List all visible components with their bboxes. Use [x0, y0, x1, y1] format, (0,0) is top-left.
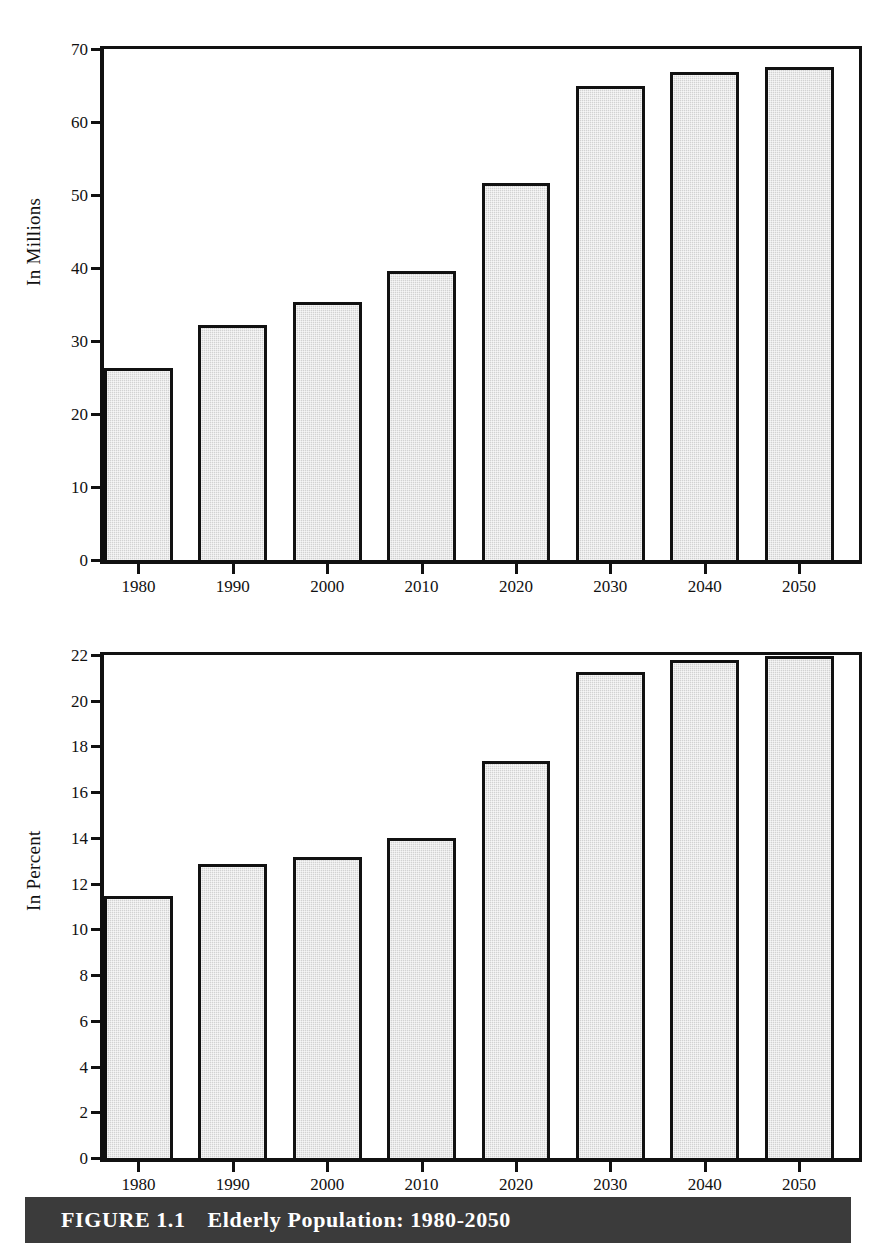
x-tick-label: 2010	[387, 577, 457, 597]
y-tick-label: 20	[54, 406, 88, 423]
y-tick-label: 2	[54, 1104, 88, 1121]
x-tick-label: 2020	[481, 577, 551, 597]
bar	[293, 857, 362, 1158]
bar	[765, 67, 834, 560]
plot-area-percent	[100, 652, 862, 1162]
x-tick-label: 2030	[575, 577, 645, 597]
chart-panel-percent: In Percent 0246810121416182022 198019902…	[0, 630, 875, 1195]
bar-series-millions	[104, 49, 859, 560]
y-tick-label: 10	[54, 921, 88, 938]
x-tick-mark	[609, 563, 612, 574]
x-tick-label: 2000	[292, 1175, 362, 1195]
y-tick-label: 30	[54, 333, 88, 350]
x-tick-label: 1990	[198, 1175, 268, 1195]
y-axis-tick-labels-millions: 010203040506070	[52, 0, 88, 600]
x-tick-label: 2020	[481, 1175, 551, 1195]
y-tick-label: 16	[54, 784, 88, 801]
bar	[387, 838, 456, 1158]
y-axis-title-millions: In Millions	[23, 246, 45, 286]
figure-caption-bar: FIGURE 1.1Elderly Population: 1980-2050	[25, 1197, 851, 1243]
y-tick-label: 4	[54, 1058, 88, 1075]
x-tick-label: 2000	[292, 577, 362, 597]
bar	[104, 368, 173, 560]
x-tick-label: 2010	[387, 1175, 457, 1195]
x-tick-mark	[609, 1161, 612, 1172]
bar	[670, 72, 739, 560]
bar	[104, 896, 173, 1158]
bar	[198, 325, 267, 560]
x-tick-mark	[798, 1161, 801, 1172]
x-tick-label: 2040	[670, 577, 740, 597]
bar	[198, 864, 267, 1158]
bar	[293, 302, 362, 560]
figure-caption-label: FIGURE 1.1	[61, 1207, 186, 1232]
x-tick-mark	[232, 1161, 235, 1172]
x-tick-mark	[704, 1161, 707, 1172]
y-tick-label: 10	[54, 479, 88, 496]
x-tick-mark	[137, 1161, 140, 1172]
figure-caption-text: FIGURE 1.1Elderly Population: 1980-2050	[61, 1207, 511, 1233]
y-axis-tick-labels-percent: 0246810121416182022	[52, 630, 88, 1195]
x-tick-mark	[421, 563, 424, 574]
bar	[576, 672, 645, 1158]
figure-caption-title: Elderly Population: 1980-2050	[208, 1207, 511, 1232]
y-tick-label: 14	[54, 829, 88, 846]
x-tick-label: 1980	[103, 1175, 173, 1195]
x-tick-label: 1990	[198, 577, 268, 597]
x-tick-label: 2050	[764, 577, 834, 597]
y-tick-label: 22	[54, 647, 88, 664]
x-tick-mark	[421, 1161, 424, 1172]
y-tick-label: 8	[54, 967, 88, 984]
y-tick-label: 20	[54, 692, 88, 709]
x-tick-label: 2040	[670, 1175, 740, 1195]
y-tick-label: 40	[54, 260, 88, 277]
y-tick-label: 12	[54, 875, 88, 892]
bar	[482, 761, 551, 1158]
x-tick-mark	[137, 563, 140, 574]
x-tick-mark	[232, 563, 235, 574]
x-tick-mark	[515, 1161, 518, 1172]
x-tick-label: 2050	[764, 1175, 834, 1195]
bar	[765, 656, 834, 1158]
y-tick-label: 70	[54, 41, 88, 58]
y-tick-label: 60	[54, 114, 88, 131]
y-tick-label: 18	[54, 738, 88, 755]
x-tick-mark	[798, 563, 801, 574]
x-axis-millions: 19801990200020102020203020402050	[0, 563, 875, 603]
figure-elderly-population: In Millions 010203040506070 198019902000…	[0, 0, 875, 1258]
x-tick-mark	[704, 563, 707, 574]
bar	[670, 660, 739, 1158]
bar	[387, 271, 456, 560]
x-tick-mark	[326, 563, 329, 574]
y-tick-label: 50	[54, 187, 88, 204]
x-tick-label: 2030	[575, 1175, 645, 1195]
bar	[482, 183, 551, 560]
plot-area-millions	[100, 46, 862, 564]
y-tick-label: 6	[54, 1012, 88, 1029]
x-axis-percent: 19801990200020102020203020402050	[0, 1161, 875, 1201]
x-tick-label: 1980	[103, 577, 173, 597]
bar	[576, 86, 645, 560]
bar-series-percent	[104, 655, 859, 1158]
x-tick-mark	[326, 1161, 329, 1172]
chart-panel-millions: In Millions 010203040506070 198019902000…	[0, 0, 875, 600]
y-axis-title-percent: In Percent	[23, 871, 45, 911]
x-tick-mark	[515, 563, 518, 574]
